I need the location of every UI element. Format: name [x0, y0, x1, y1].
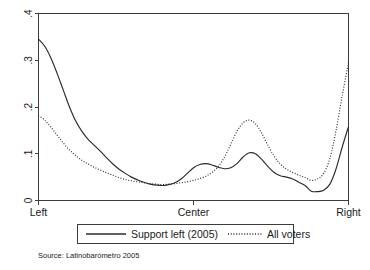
legend-label-all-voters: All voters [267, 228, 310, 240]
x-tick-label-left: Left [30, 206, 48, 218]
x-tick-label-center: Center [178, 206, 210, 218]
source-note: Source: Latinobarómetro 2005 [38, 251, 139, 260]
density-chart: 0.1.2.3.4 LeftCenterRight Support left (… [0, 0, 370, 270]
x-tick-label-right: Right [336, 206, 361, 218]
legend: Support left (2005) All voters [78, 225, 311, 244]
y-tick-label: .1 [23, 149, 34, 158]
y-tick-label: .4 [23, 9, 34, 18]
legend-label-support-left: Support left (2005) [131, 228, 218, 240]
y-tick-label: .2 [23, 102, 34, 111]
y-tick-label: .3 [23, 56, 34, 65]
y-tick-label: 0 [23, 197, 34, 203]
